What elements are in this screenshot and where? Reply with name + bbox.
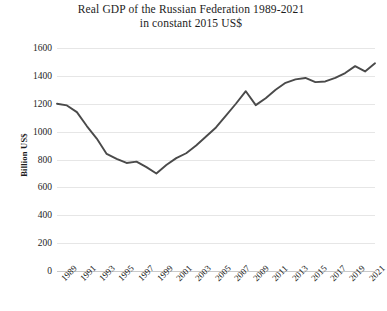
gdp-series-line xyxy=(57,63,375,173)
